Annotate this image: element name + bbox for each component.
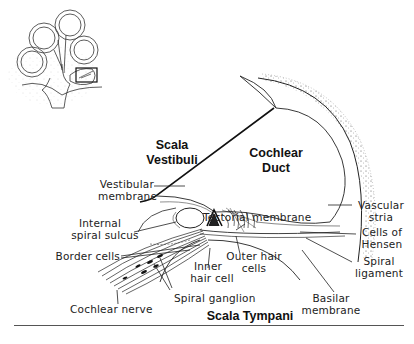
cells-of-hensen-line2: Hensen [356, 238, 408, 250]
label-tectorial-membrane: Tectorial membrane [203, 211, 311, 223]
label-cells-of-hensen: Cells of Hensen [356, 226, 408, 250]
inner-hair-cell-line1: Inner [182, 260, 242, 272]
vascular-stria-line2: stria [354, 211, 408, 223]
vascular-stria-line1: Vascular [354, 199, 408, 211]
cochlea-inset [8, 10, 102, 108]
label-border-cells: Border cells [48, 250, 120, 262]
basilar-membrane-line2: membrane [296, 304, 366, 316]
label-vestibular-membrane: Vestibular membrane [98, 178, 154, 202]
label-spiral-ligament: Spiral ligament [352, 255, 406, 279]
vestibular-membrane-line1: Vestibular [98, 178, 154, 190]
vestibular-membrane-line2: membrane [98, 190, 154, 202]
cochlear-duct-line2: Duct [246, 161, 306, 176]
label-inner-hair-cell: Inner hair cell [182, 260, 242, 284]
inner-hair-cell-line2: hair cell [182, 272, 242, 284]
internal-spiral-sulcus-line1: Internal [60, 217, 140, 229]
scala-vestibuli-line1: Scala [142, 138, 202, 153]
scala-vestibuli-line2: Vestibuli [142, 153, 202, 168]
label-cochlear-nerve: Cochlear nerve [70, 303, 153, 315]
internal-spiral-sulcus-line2: spiral sulcus [60, 229, 140, 241]
label-basilar-membrane: Basilar membrane [296, 292, 366, 316]
spiral-ligament-line1: Spiral [352, 255, 406, 267]
internal-spiral-sulcus [176, 208, 204, 228]
label-scala-tympani: Scala Tympani [200, 309, 300, 324]
label-scala-vestibuli: Scala Vestibuli [142, 138, 202, 168]
basilar-membrane-line1: Basilar [296, 292, 366, 304]
label-cochlear-duct: Cochlear Duct [246, 146, 306, 176]
spiral-ligament-line2: ligament [352, 267, 406, 279]
label-spiral-ganglion: Spiral ganglion [174, 292, 256, 304]
label-vascular-stria: Vascular stria [354, 199, 408, 223]
cochlear-duct-line1: Cochlear [246, 146, 306, 161]
label-internal-spiral-sulcus: Internal spiral sulcus [60, 217, 140, 241]
cells-of-hensen-line1: Cells of [356, 226, 408, 238]
bottom-divider [14, 325, 404, 326]
